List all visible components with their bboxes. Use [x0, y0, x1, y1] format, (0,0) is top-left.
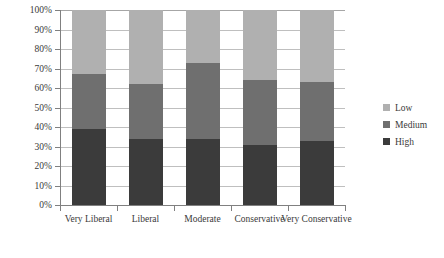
legend-item: Low [383, 100, 443, 115]
y-axis-tick-label: 70% [0, 64, 52, 74]
x-axis-tick [288, 206, 289, 211]
y-axis-tick-label: 10% [0, 181, 52, 191]
plot-area [60, 10, 345, 205]
x-axis-tick [345, 206, 346, 211]
y-axis-tick [55, 10, 60, 11]
y-axis-tick-label: 100% [0, 5, 52, 15]
bar-segment-high [300, 141, 334, 205]
y-axis-tick [55, 69, 60, 70]
bar-segment-medium [186, 63, 220, 139]
x-axis-tick [174, 206, 175, 211]
bar-moderate [186, 10, 220, 205]
y-axis-tick [55, 186, 60, 187]
y-axis-tick-label: 60% [0, 83, 52, 93]
y-axis-tick-label: 0% [0, 200, 52, 210]
y-axis-tick-label: 40% [0, 122, 52, 132]
x-axis-tick [231, 206, 232, 211]
y-axis-tick-label: 30% [0, 142, 52, 152]
bar-segment-high [129, 139, 163, 205]
bar-segment-high [72, 129, 106, 205]
chart-legend: LowMediumHigh [383, 100, 443, 151]
bar-segment-medium [72, 74, 106, 129]
y-axis-tick [55, 30, 60, 31]
legend-swatch-icon [383, 121, 390, 128]
bar-segment-low [129, 10, 163, 84]
legend-label: Medium [395, 120, 427, 130]
y-axis-tick [55, 88, 60, 89]
legend-label: High [395, 137, 414, 147]
y-axis-tick-label: 80% [0, 44, 52, 54]
legend-swatch-icon [383, 138, 390, 145]
legend-item: Medium [383, 117, 443, 132]
legend-item: High [383, 134, 443, 149]
bar-segment-low [186, 10, 220, 63]
bar-conservative [243, 10, 277, 205]
x-axis-line [60, 205, 346, 206]
y-axis-tick [55, 147, 60, 148]
y-axis-tick [55, 127, 60, 128]
bar-segment-low [72, 10, 106, 74]
bar-segment-medium [129, 84, 163, 139]
y-axis-line [60, 10, 61, 206]
y-axis-tick-label: 50% [0, 103, 52, 113]
bar-segment-low [300, 10, 334, 82]
legend-swatch-icon [383, 104, 390, 111]
bar-segment-medium [300, 82, 334, 141]
bar-very-conservative [300, 10, 334, 205]
y-axis-tick-label: 20% [0, 161, 52, 171]
legend-label: Low [395, 103, 412, 113]
bar-liberal [129, 10, 163, 205]
bar-segment-low [243, 10, 277, 80]
stacked-bar-chart: 100%90%80%70%60%50%40%30%20%10%0% Very L… [0, 0, 444, 258]
y-axis-tick-label: 90% [0, 25, 52, 35]
bar-very-liberal [72, 10, 106, 205]
x-axis-tick [60, 206, 61, 211]
bar-segment-medium [243, 80, 277, 144]
x-axis-tick [117, 206, 118, 211]
x-axis-tick-label: Very Conservative [279, 214, 355, 226]
bar-segment-high [186, 139, 220, 205]
y-axis-tick [55, 166, 60, 167]
y-axis-tick [55, 108, 60, 109]
y-axis-tick [55, 49, 60, 50]
bar-segment-high [243, 145, 277, 205]
